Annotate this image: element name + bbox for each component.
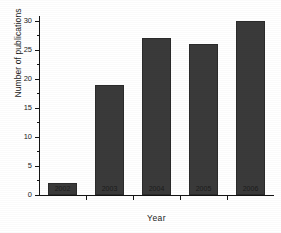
y-axis-tick-label: 15 xyxy=(24,103,32,112)
y-axis-line xyxy=(39,16,40,196)
y-axis-minor-tick xyxy=(37,151,39,152)
bar xyxy=(189,44,218,195)
y-axis-tick-label: 0 xyxy=(28,190,32,199)
y-axis-tick: 20 xyxy=(35,79,39,80)
x-axis-line xyxy=(39,195,274,196)
x-axis-tick xyxy=(86,196,87,200)
y-axis-tick: 30 xyxy=(35,21,39,22)
bar xyxy=(142,38,171,195)
bar-chart-figure: Number of publications 051015202530 2002… xyxy=(0,0,281,233)
x-axis-tick xyxy=(180,196,181,200)
y-axis-tick-label: 5 xyxy=(28,161,32,170)
y-axis-minor-tick xyxy=(37,35,39,36)
x-axis-tick xyxy=(133,196,134,200)
y-axis-minor-tick xyxy=(37,122,39,123)
y-axis-tick-label: 10 xyxy=(24,132,32,141)
y-axis-tick-label: 25 xyxy=(24,45,32,54)
y-axis-tick: 15 xyxy=(35,108,39,109)
x-axis-title: Year xyxy=(39,213,274,223)
y-axis-tick: 0 xyxy=(35,195,39,196)
x-axis-tick-label: 2002 xyxy=(39,185,86,192)
x-axis-tick-label: 2004 xyxy=(133,185,180,192)
y-axis-minor-tick xyxy=(37,93,39,94)
bar xyxy=(236,21,265,195)
y-axis-tick: 5 xyxy=(35,166,39,167)
x-axis-tick xyxy=(227,196,228,200)
y-axis-tick: 25 xyxy=(35,50,39,51)
y-axis-minor-tick xyxy=(37,64,39,65)
x-axis-tick-label: 2003 xyxy=(86,185,133,192)
y-axis-tick-label: 20 xyxy=(24,74,32,83)
y-axis-tick: 10 xyxy=(35,137,39,138)
y-axis-tick-label: 30 xyxy=(24,16,32,25)
y-axis-title: Number of publications xyxy=(13,0,23,118)
bar xyxy=(95,85,124,195)
x-axis-tick-label: 2006 xyxy=(227,185,274,192)
x-axis-tick-label: 2005 xyxy=(180,185,227,192)
y-axis-minor-tick xyxy=(37,180,39,181)
plot-area: 051015202530 xyxy=(39,16,274,196)
